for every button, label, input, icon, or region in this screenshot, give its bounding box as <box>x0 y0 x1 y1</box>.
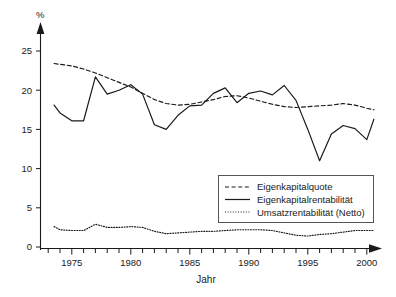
y-tick-label-5: 5 <box>27 202 32 213</box>
y-tick-label-20: 20 <box>21 85 32 96</box>
x-tick-label-1990: 1990 <box>238 257 259 268</box>
x-tick-label-1975: 1975 <box>61 257 82 268</box>
y-tick-label-0: 0 <box>27 241 32 252</box>
chart-legend: Eigenkapitalquote Eigenkapitalrentabilit… <box>219 176 374 223</box>
x-axis-title: Jahr <box>196 274 216 285</box>
x-axis-minor-ticks <box>48 249 367 255</box>
legend-label-umsatzrentabilitaet: Umsatzrentabilität (Netto) <box>257 207 365 218</box>
line-chart: 0 5 10 15 20 25 % <box>0 0 396 297</box>
y-tick-label-15: 15 <box>21 124 32 135</box>
y-tick-label-10: 10 <box>21 163 32 174</box>
y-axis-unit-label: % <box>36 9 45 20</box>
legend-label-eigenkapitalquote: Eigenkapitalquote <box>257 181 333 192</box>
y-tick-label-25: 25 <box>21 45 32 56</box>
y-axis <box>37 22 45 250</box>
x-tick-label-1995: 1995 <box>297 257 318 268</box>
x-tick-label-1985: 1985 <box>179 257 200 268</box>
y-axis-ticks <box>36 51 41 247</box>
legend-label-eigenkapitalrentabilitaet: Eigenkapitalrentabilität <box>257 194 353 205</box>
series-line-3 <box>54 224 374 236</box>
x-axis <box>41 244 383 253</box>
x-tick-label-2000: 2000 <box>356 257 377 268</box>
chart-figure: 0 5 10 15 20 25 % <box>0 0 396 297</box>
series-line-2 <box>54 77 374 161</box>
x-tick-label-1980: 1980 <box>120 257 141 268</box>
